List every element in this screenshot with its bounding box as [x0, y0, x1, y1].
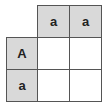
cell-r2-c2 [69, 69, 102, 102]
cell-r2-c0: a [6, 69, 38, 102]
cell-r1-c1 [37, 37, 70, 70]
cell-r0-c2: a [69, 5, 102, 38]
cell-r1-c0: A [6, 37, 38, 70]
cell-r2-c1 [37, 69, 70, 102]
cell-r0-c1: a [37, 5, 70, 38]
cell-r1-c2 [69, 37, 102, 70]
